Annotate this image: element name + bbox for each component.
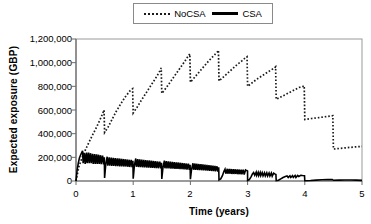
series-layer xyxy=(76,50,362,181)
plot-area xyxy=(0,0,371,224)
series-line-csa xyxy=(76,151,362,181)
chart-figure: NoCSA CSA Expected exposure (GBP) 1,200,… xyxy=(0,0,371,224)
